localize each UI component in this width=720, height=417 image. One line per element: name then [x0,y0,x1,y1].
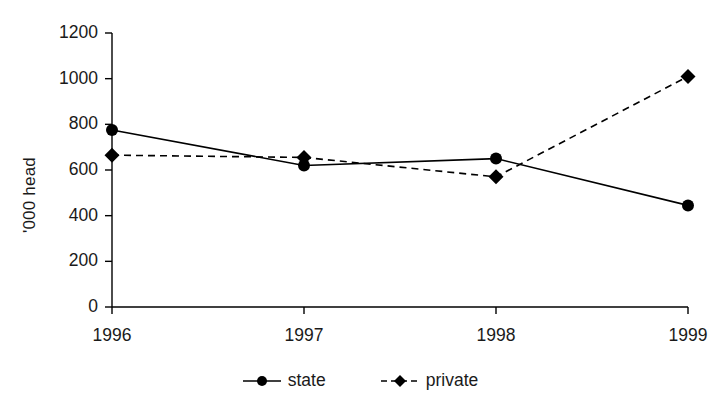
y-axis-title-container: '000 head [0,90,108,114]
diamond-marker-icon [105,148,120,163]
plot-area [0,0,720,417]
x-tick-label: 1997 [285,327,324,345]
y-tick-label: 600 [0,161,98,179]
diamond-marker-icon [681,69,696,84]
legend-item-state: state [242,372,326,390]
axis-lines [105,33,688,314]
legend-swatch-state [242,373,282,389]
diamond-marker-icon [394,375,406,387]
circle-marker-icon [682,199,694,211]
y-axis-title: '000 head [20,115,40,275]
x-tick-label: 1998 [477,327,516,345]
circle-marker-icon [490,153,502,165]
legend-label-private: private [426,372,479,390]
y-tick-label: 800 [0,116,98,134]
x-tick-label: 1996 [93,327,132,345]
y-tick-label: 1000 [0,70,98,88]
y-tick-label: 0 [0,298,98,316]
legend-label-state: state [288,372,326,390]
legend-item-private: private [380,372,479,390]
y-tick-label: 1200 [0,24,98,42]
legend-swatch-private [380,373,420,389]
line-chart: '000 head 120010008006004002000 19961997… [0,0,720,417]
x-tick-label: 1999 [669,327,708,345]
diamond-marker-icon [489,169,504,184]
chart-legend: state private [0,372,720,390]
y-tick-label: 200 [0,253,98,271]
data-series-group [105,69,696,212]
y-tick-label: 400 [0,207,98,225]
circle-marker-icon [106,124,118,136]
circle-marker-icon [257,376,267,386]
